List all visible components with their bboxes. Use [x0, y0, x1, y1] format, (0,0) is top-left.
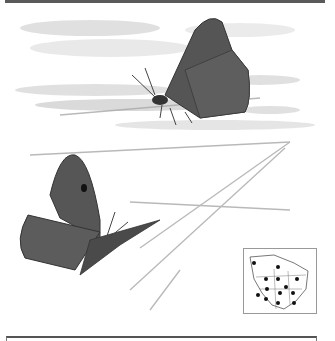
- flying-butterfly: [20, 155, 160, 275]
- landscape-wash: [15, 20, 315, 130]
- north-america-map-icon: [244, 249, 316, 313]
- bottom-frame-bar: [6, 336, 317, 341]
- range-map: [243, 248, 317, 314]
